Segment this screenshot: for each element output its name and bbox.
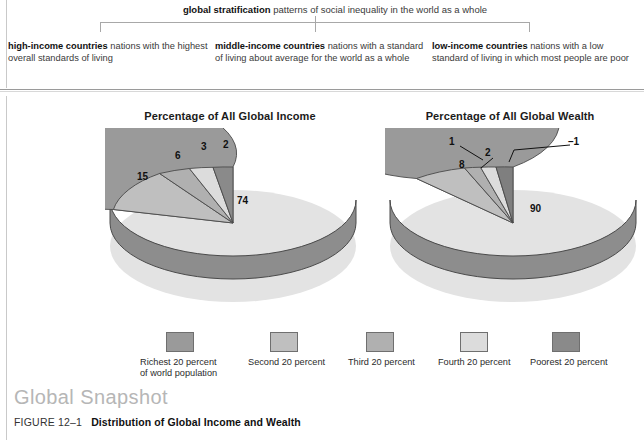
- pie-income-svg: [105, 128, 370, 313]
- legend-item-poorest: Poorest 20 percent: [530, 332, 608, 368]
- chart-legend: Richest 20 percent of world population S…: [0, 332, 644, 380]
- bracket-left-leg: [100, 22, 101, 32]
- definition-term-low-income: low-income countries: [432, 41, 528, 51]
- pie-income-value-fourth: 3: [201, 141, 207, 152]
- figure-title: Distribution of Global Income and Wealth: [91, 416, 301, 428]
- pie-chart-global-income: 74 15 6 3 2: [105, 128, 370, 313]
- legend-swatch-fourth-icon: [460, 332, 488, 352]
- definition-headline-text: patterns of social inequality in the wor…: [273, 4, 487, 15]
- pie-wealth-value-richest: 90: [530, 203, 541, 214]
- definition-column-low-income: low-income countries nations with a low …: [432, 40, 637, 65]
- bracket-right-leg: [529, 22, 530, 32]
- definition-column-high-income: high-income countries nations with the h…: [8, 40, 208, 65]
- definition-term-middle-income: middle-income countries: [215, 41, 325, 51]
- legend-item-fourth: Fourth 20 percent: [438, 332, 511, 368]
- definition-headline-term: global stratification: [183, 4, 271, 15]
- chart-title-income: Percentage of All Global Income: [95, 110, 365, 122]
- pie-wealth-value-fourth: 1: [449, 136, 455, 147]
- legend-label-second: Second 20 percent: [248, 357, 325, 368]
- legend-label-fourth: Fourth 20 percent: [438, 357, 511, 368]
- legend-swatch-second-icon: [270, 332, 298, 352]
- pie-income-slices: [105, 128, 237, 223]
- pie-wealth-value-third: 2: [485, 147, 491, 158]
- pie-income-value-second: 15: [137, 171, 148, 182]
- bracket-center-stem: [315, 16, 316, 32]
- pie-wealth-value-second: 8: [459, 159, 465, 170]
- legend-label-richest: Richest 20 percent of world population: [140, 357, 217, 379]
- legend-label-third: Third 20 percent: [348, 357, 415, 368]
- figure-number: FIGURE 12–1: [14, 416, 82, 428]
- definition-headline: global stratification patterns of social…: [100, 4, 570, 16]
- pie-income-value-poorest: 2: [223, 139, 229, 150]
- legend-label-poorest: Poorest 20 percent: [530, 357, 608, 368]
- pie-income-value-richest: 74: [237, 195, 248, 206]
- legend-item-richest: Richest 20 percent of world population: [140, 332, 217, 379]
- definition-term-high-income: high-income countries: [8, 41, 108, 51]
- legend-swatch-third-icon: [366, 332, 394, 352]
- pie-chart-global-wealth: 90 8 2 1 –1: [385, 128, 644, 313]
- pie-income-value-third: 6: [175, 150, 181, 161]
- global-snapshot-heading: Global Snapshot: [14, 386, 168, 409]
- section-divider-rule: [0, 89, 644, 90]
- legend-swatch-poorest-icon: [552, 332, 580, 352]
- definition-diagram: global stratification patterns of social…: [0, 0, 644, 88]
- legend-item-second: Second 20 percent: [248, 332, 325, 368]
- section-divider-rule-secondary: [0, 91, 644, 92]
- definition-column-middle-income: middle-income countries nations with a s…: [215, 40, 425, 65]
- chart-title-wealth: Percentage of All Global Wealth: [375, 110, 644, 122]
- pie-wealth-value-poorest: –1: [568, 136, 579, 147]
- figure-caption: FIGURE 12–1Distribution of Global Income…: [14, 416, 301, 428]
- legend-item-third: Third 20 percent: [348, 332, 415, 368]
- definition-bracket: [100, 22, 530, 32]
- pie-wealth-svg: [385, 128, 644, 313]
- legend-swatch-richest-icon: [166, 332, 194, 352]
- figure-page: global stratification patterns of social…: [0, 0, 644, 440]
- left-page-rule-bottom: [6, 96, 7, 440]
